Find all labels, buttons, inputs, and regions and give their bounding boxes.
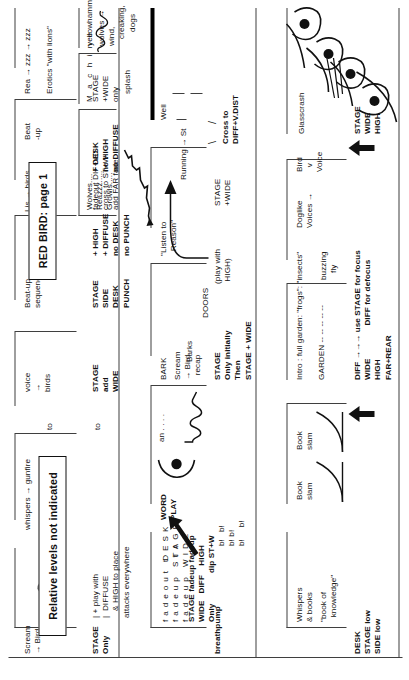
thick-accent-bar — [150, 8, 154, 120]
slash-right: / — [206, 121, 216, 124]
breathpump-tick-2 — [172, 93, 184, 94]
staff-seg-1d — [14, 216, 15, 300]
staff-seg-2c — [78, 8, 79, 48]
staff-seg-4e — [286, 8, 287, 134]
cue-splash: Running → St — [178, 128, 188, 180]
note-box: Relative levels not indicated — [38, 456, 66, 636]
barline-3a — [150, 627, 206, 628]
cue-bird-v-voice: Bird v Voice — [294, 152, 325, 172]
up-arrow-2 — [348, 140, 374, 156]
breathpump-tick-1 — [176, 119, 186, 120]
score-sheet: Scream → Bird whispers → gunfire to voic… — [0, 0, 409, 680]
cue-voice-birds: voice → birds — [22, 373, 53, 392]
page-title: RED BIRD: page 1 — [28, 162, 56, 280]
mix-stage-add-wide: STAGE add WIDE — [90, 364, 121, 392]
barline-2b — [78, 109, 116, 110]
staff-seg-4c — [286, 284, 287, 380]
arc-dot-figure — [156, 448, 196, 490]
cue-whispers-books: Whispers & books — [294, 587, 314, 622]
screenshot-frame: Scream → Bird whispers → gunfire to voic… — [0, 0, 409, 680]
staff-seg-1b — [14, 434, 15, 520]
mix-stage-side-desk-punch: STAGE SIDE DESK PUNCH — [90, 279, 131, 308]
barline-1b — [14, 433, 76, 434]
cue-barks: BARK — [158, 358, 168, 380]
staff-seg-1e — [14, 100, 15, 180]
mix-stage-wide-only: STAGE +WIDE only — [90, 75, 121, 102]
system-rule-2 — [255, 8, 256, 658]
barline-1e — [14, 99, 76, 100]
margin-rule-left — [8, 657, 402, 658]
mix-stage-wide-high: STAGE WIDE HIGH — [352, 106, 383, 134]
staff-seg-1f — [14, 8, 15, 68]
mix-diff-use-stage: DIFF →→→ use STAGE for focus WIDE DIFF f… — [352, 250, 393, 380]
up-arrow-1 — [348, 406, 374, 422]
jagged-gliss — [122, 146, 152, 228]
staff-seg-3a — [150, 532, 151, 628]
cue-garden: GARDEN -- -- -- -- -- — [316, 305, 326, 380]
mix-fadeout-cross: STAGE +WIDE — [212, 179, 232, 206]
bark-arrow — [168, 514, 198, 560]
splash-arrow — [168, 174, 210, 260]
glasscrash-figures — [300, 4, 398, 128]
recap-squiggle — [182, 386, 206, 444]
cue-book-slam-2: Book slam — [294, 431, 314, 450]
staff-seg-1a — [14, 548, 15, 628]
staff-seg-1c — [14, 332, 15, 406]
barline-4a — [286, 627, 346, 628]
cue-buzzing-fly: buzzing fly — [318, 251, 338, 280]
mix-cross-to-diff-vdist: (play with HIGH) — [212, 249, 232, 284]
cue-yellowhammer: yellowhammer — [84, 0, 94, 46]
cue-scream-bird-recap: an . . . . — [156, 414, 166, 442]
staff-seg-3b — [150, 386, 151, 504]
staff-seg-2a — [78, 110, 79, 216]
cue-book-of-knowledge: "book of knowledge" — [318, 575, 338, 622]
yellowhammer-squiggle — [94, 8, 116, 54]
staff-seg-4a — [286, 532, 287, 628]
staff-seg-2b — [78, 54, 79, 104]
cue-doglike-voices: Doglike Voices → — [294, 193, 314, 228]
ramp-curve-2 — [314, 408, 344, 454]
ramp-curve-1 — [314, 458, 344, 504]
barline-1c — [14, 331, 76, 332]
mix-stage-only-initially: breathpump — [212, 606, 222, 654]
cue-to: to — [44, 423, 54, 430]
barline-4b — [286, 403, 346, 404]
cue-whispers-gunfire: whispers → gunfire — [22, 459, 32, 530]
cue-beat-up: Beat -up — [22, 123, 42, 140]
slash-left: \ — [206, 141, 216, 144]
staff-seg-4b — [286, 404, 287, 504]
score-page: Scream → Bird whispers → gunfire to voic… — [0, 0, 409, 680]
mix-stage-wide-only-2: Cross to DIFF+V.DIST — [220, 95, 240, 144]
staff-seg-3c — [150, 264, 151, 356]
cue-intro-full-garden: Intro : full garden: "frogs": "insects" — [294, 252, 304, 380]
barline-3c — [150, 263, 206, 264]
mix-fadeout-desk: fadeout DIF+VD cross to ST+W add FAR fad… — [90, 150, 121, 210]
cue-rea-zzz: Rea → zzz → zzz — [22, 28, 32, 94]
cue-erotics-lions: Erotics "with lions" — [44, 26, 54, 94]
mix-desk-stage-side-low: DESK STAGE low SIDE low — [352, 610, 383, 654]
mix-stage-plus-wide: STAGE Only initially Then STAGE + WIDE — [212, 321, 253, 380]
mix-play-with-high: b! b! b! b! b! b! — [216, 520, 247, 546]
breathpump-tick-3 — [190, 93, 202, 94]
cue-breathpump: Well — [158, 104, 168, 120]
mix-stage-only: STAGE Only — [90, 626, 110, 654]
cue-book-slam-1: Book slam — [294, 481, 314, 500]
mix-to-2: to — [92, 423, 102, 430]
cue-listen-to-reason: Barks — [184, 341, 194, 362]
cue-running-to-st: DOORS — [200, 288, 210, 318]
cue-bl-group: splash — [122, 70, 132, 94]
mix-play-with-diffuse: | + play with | DIFFUSE & HIGH to place … — [90, 546, 131, 618]
staff-seg-4d — [286, 160, 287, 260]
